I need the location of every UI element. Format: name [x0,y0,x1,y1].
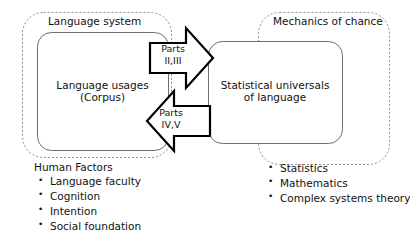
arrow-label-parts-ii-iii-line1: Parts [152,43,194,55]
bullet-list-human-factors: Language faculty Cognition Intention Soc… [34,174,141,234]
list-human-factors: Human Factors Language faculty Cognition… [34,161,141,234]
list-item: Intention [34,204,141,219]
list-mechanics-topics: Statistics Mathematics Complex systems t… [264,161,410,206]
box-label-statistical-universals-line1: Statistical universals [208,79,342,91]
list-item: Social foundation [34,219,141,234]
list-heading-human-factors: Human Factors [34,161,141,173]
box-label-language-usages-line1: Language usages [37,79,168,91]
region-title-mechanics-of-chance: Mechanics of chance [273,15,383,27]
box-label-statistical-universals-line2: of language [208,91,342,103]
box-label-language-usages: Language usages (Corpus) [37,79,168,103]
list-item: Complex systems theory [264,191,410,206]
list-item: Language faculty [34,174,141,189]
list-item: Statistics [264,161,410,176]
region-title-language-system: Language system [48,15,141,27]
arrow-label-parts-iv-v: Parts IV,V [150,107,192,130]
list-item: Mathematics [264,176,410,191]
arrow-label-parts-iv-v-line1: Parts [150,107,192,119]
bullet-list-mechanics-topics: Statistics Mathematics Complex systems t… [264,161,410,206]
arrow-label-parts-ii-iii: Parts II,III [152,43,194,66]
list-item: Cognition [34,189,141,204]
box-label-statistical-universals: Statistical universals of language [208,79,342,103]
arrow-label-parts-iv-v-line2: IV,V [150,119,192,131]
arrow-label-parts-ii-iii-line2: II,III [152,55,194,67]
box-label-language-usages-line2: (Corpus) [37,91,168,103]
